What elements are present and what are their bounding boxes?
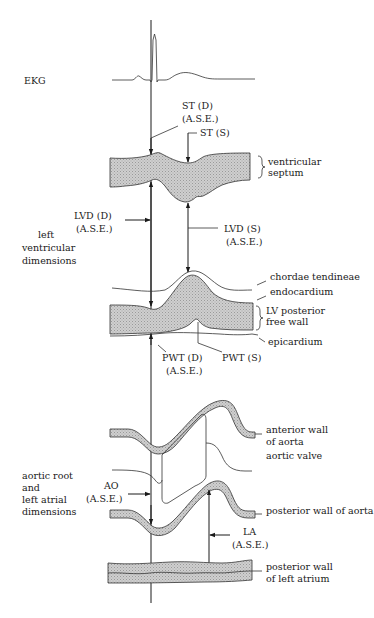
svg-text:AO: AO	[103, 480, 119, 491]
ventricular-septum	[110, 153, 250, 202]
aortic-valve-label: aortic valve	[266, 450, 323, 461]
aortic-valve-leaflet-right	[206, 443, 252, 471]
la-label: LA (A.S.E.)	[232, 526, 268, 550]
epicardium-leader	[259, 338, 265, 342]
aortic-valve-leaflet-left	[112, 470, 162, 483]
st-s-label: ST (S)	[200, 127, 230, 138]
svg-text:anterior wall: anterior wall	[266, 424, 328, 435]
svg-text:of aorta: of aorta	[266, 436, 304, 447]
ekg-section: EKG	[24, 34, 255, 86]
svg-text:(A.S.E.): (A.S.E.)	[232, 539, 268, 550]
ao-label: AO (A.S.E.)	[86, 480, 122, 504]
posterior-wall-of-aorta	[110, 481, 255, 536]
anterior-wall-of-aorta-label: anterior wall of aorta	[266, 424, 328, 447]
svg-text:posterior wall: posterior wall	[266, 561, 333, 572]
chordae-leader	[257, 281, 266, 285]
lv-posterior-free-wall	[110, 275, 253, 334]
svg-text:aortic root: aortic root	[22, 470, 73, 481]
left-ventricular-dimensions-label: left ventricular dimensions	[21, 229, 77, 266]
lv-posterior-free-wall-label: LV posterior free wall	[266, 305, 325, 327]
svg-text:(A.S.E.): (A.S.E.)	[166, 365, 202, 376]
svg-text:LVD (S): LVD (S)	[224, 223, 261, 234]
svg-text:free wall: free wall	[266, 316, 308, 327]
anterior-wall-of-aorta	[110, 400, 255, 454]
ekg-trace	[112, 34, 255, 82]
lv-wall-brace-icon	[256, 306, 263, 330]
svg-text:dimensions: dimensions	[22, 255, 77, 266]
svg-text:LVD (D): LVD (D)	[74, 210, 112, 221]
posterior-wall-of-left-atrium-label: posterior wall of left atrium	[266, 561, 333, 584]
septum-brace-icon	[258, 156, 265, 178]
endocardium-label: endocardium	[270, 286, 333, 297]
svg-text:and: and	[22, 482, 40, 493]
svg-text:septum: septum	[268, 167, 304, 178]
svg-text:(A.S.E.): (A.S.E.)	[182, 113, 218, 124]
aortic-root-left-atrial-dimensions-label: aortic root and left atrial dimensions	[22, 470, 77, 517]
svg-text:(A.S.E.): (A.S.E.)	[226, 236, 262, 247]
svg-text:LA: LA	[243, 526, 256, 537]
pwt-d-leader	[158, 345, 166, 352]
lvd-d-label: LVD (D) (A.S.E.)	[74, 210, 112, 234]
svg-text:PWT (D): PWT (D)	[162, 352, 203, 363]
svg-text:dimensions: dimensions	[22, 506, 77, 517]
svg-text:ST (D): ST (D)	[182, 100, 213, 111]
ventricular-septum-label: ventricular septum	[267, 156, 322, 178]
svg-text:LV posterior: LV posterior	[266, 305, 325, 316]
posterior-wall-of-aorta-label: posterior wall of aorta	[266, 505, 374, 516]
st-d-leader	[151, 126, 178, 138]
epicardium-label: epicardium	[268, 336, 323, 347]
svg-text:(A.S.E.): (A.S.E.)	[86, 493, 122, 504]
svg-text:left: left	[38, 229, 54, 240]
ekg-label: EKG	[24, 75, 46, 86]
pwt-s-label: PWT (S)	[222, 352, 261, 363]
echo-mmode-diagram: EKG ST (D) (A.S.E.) ST (S) ventricular s…	[0, 0, 374, 618]
endocardium-leader	[257, 296, 266, 300]
chordae-tendineae-label: chordae tendineae	[270, 271, 360, 282]
svg-text:ventricular: ventricular	[21, 242, 76, 253]
svg-text:of left atrium: of left atrium	[266, 573, 329, 584]
posterior-wall-of-left-atrium	[108, 560, 252, 583]
svg-text:left atrial: left atrial	[22, 494, 67, 505]
svg-text:ventricular: ventricular	[267, 156, 322, 167]
lvd-s-label: LVD (S) (A.S.E.)	[224, 223, 262, 247]
pwt-d-label: PWT (D) (A.S.E.)	[162, 352, 203, 376]
svg-text:(A.S.E.): (A.S.E.)	[76, 223, 112, 234]
st-d-label: ST (D) (A.S.E.)	[182, 100, 218, 124]
